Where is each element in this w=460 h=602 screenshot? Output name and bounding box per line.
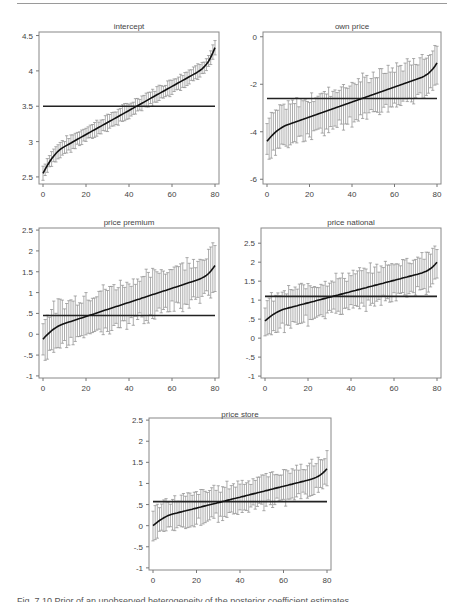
y-tick-label: 4.5 — [22, 32, 34, 41]
y-tick-label: .5 — [136, 501, 143, 510]
y-tick-label: 3 — [29, 138, 34, 147]
y-tick-label: -.5 — [246, 353, 256, 362]
chart-title: intercept — [39, 22, 219, 31]
y-tick-label: 0 — [139, 522, 144, 531]
y-tick-label: 2 — [29, 247, 34, 256]
y-tick-label: .5 — [26, 309, 33, 318]
chart-title: price store — [149, 410, 331, 419]
x-tick-label: 60 — [390, 384, 399, 393]
chart-title: price national — [261, 218, 441, 227]
x-tick-label: 80 — [211, 384, 220, 393]
y-tick-label: 1 — [251, 296, 256, 305]
y-tick-label: 2 — [251, 258, 256, 267]
y-tick-label: 4 — [29, 67, 34, 76]
y-tick-label: 2.5 — [132, 416, 144, 425]
x-tick-label: 0 — [263, 384, 268, 393]
y-tick-label: 0 — [253, 33, 258, 42]
y-tick-label: -.5 — [134, 543, 144, 552]
x-tick-label: 20 — [305, 190, 314, 199]
y-tick-label: 2.5 — [244, 239, 256, 248]
chart-svg: -1-.50.511.522.5020406080 — [110, 404, 346, 594]
x-tick-label: 20 — [82, 384, 91, 393]
y-tick-label: 1.5 — [22, 268, 34, 277]
x-tick-label: 80 — [433, 384, 442, 393]
x-tick-label: 20 — [304, 384, 313, 393]
chart-svg: -1-.50.511.522.5020406080 — [224, 212, 460, 402]
chart-price-national: -1-.50.511.522.5020406080 price national — [224, 212, 460, 402]
x-tick-label: 0 — [265, 190, 270, 199]
x-tick-label: 40 — [347, 384, 356, 393]
y-tick-label: 2.5 — [22, 173, 34, 182]
x-tick-label: 0 — [151, 576, 156, 585]
chart-price-store: -1-.50.511.522.5020406080 price store — [110, 404, 346, 594]
y-tick-label: -.5 — [24, 351, 34, 360]
x-tick-label: 80 — [323, 576, 332, 585]
chart-own-price: -6-4-20020406080 own price — [224, 16, 460, 206]
x-tick-label: 60 — [390, 190, 399, 199]
chart-price-premium: -1-.50.511.522.5020406080 price premium — [0, 212, 230, 402]
error-bars — [151, 451, 328, 541]
y-tick-label: 2.5 — [22, 226, 34, 235]
x-tick-label: 40 — [125, 190, 134, 199]
y-tick-label: -1 — [26, 372, 34, 381]
x-tick-label: 60 — [168, 190, 177, 199]
x-tick-label: 60 — [168, 384, 177, 393]
chart-svg: -6-4-20020406080 — [224, 16, 460, 206]
chart-svg: -1-.50.511.522.5020406080 — [0, 212, 230, 402]
x-tick-label: 60 — [279, 576, 288, 585]
figure-caption: Fig. 7.10 Prior of an unobserved heterog… — [17, 592, 447, 602]
y-tick-label: 3.5 — [22, 102, 34, 111]
x-tick-label: 20 — [192, 576, 201, 585]
y-tick-label: -2 — [250, 80, 258, 89]
y-tick-label: 0 — [29, 330, 34, 339]
x-tick-label: 40 — [236, 576, 245, 585]
y-tick-label: 2 — [139, 437, 144, 446]
x-tick-label: 20 — [82, 190, 91, 199]
y-tick-label: -1 — [136, 564, 144, 573]
y-tick-label: 1.5 — [132, 458, 144, 467]
x-tick-label: 80 — [433, 190, 442, 199]
y-tick-label: 0 — [251, 334, 256, 343]
chart-intercept: 2.533.544.5020406080 intercept — [0, 16, 230, 206]
estimate-line — [43, 48, 215, 174]
top-rule — [17, 3, 447, 4]
x-tick-label: 40 — [125, 384, 134, 393]
x-tick-label: 80 — [211, 190, 220, 199]
x-tick-label: 0 — [41, 384, 46, 393]
chart-svg: 2.533.544.5020406080 — [0, 16, 230, 206]
x-tick-label: 0 — [41, 190, 46, 199]
y-tick-label: 1 — [139, 479, 144, 488]
y-tick-label: .5 — [248, 315, 255, 324]
chart-title: price premium — [39, 218, 219, 227]
y-tick-label: -4 — [250, 128, 258, 137]
y-tick-label: -6 — [250, 175, 258, 184]
y-tick-label: 1.5 — [244, 277, 256, 286]
y-tick-label: 1 — [29, 289, 34, 298]
y-tick-label: -1 — [248, 372, 256, 381]
x-tick-label: 40 — [348, 190, 357, 199]
chart-title: own price — [263, 22, 441, 31]
